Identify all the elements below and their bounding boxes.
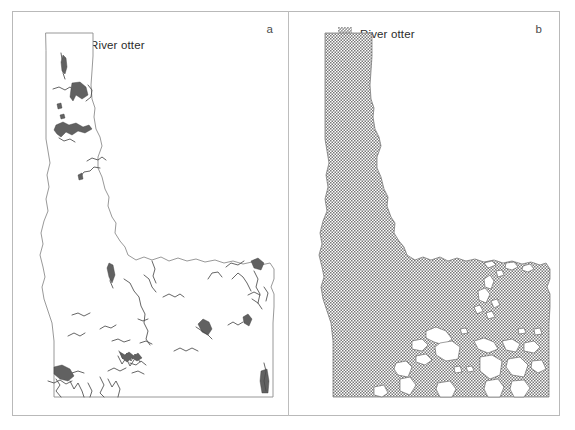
figure-container: a River otter — [0, 0, 575, 430]
panel-a: a River otter — [12, 11, 289, 416]
panel-b: b River otter — [288, 11, 560, 416]
river-patch-bear-lake — [260, 369, 269, 393]
panel-b-map — [288, 11, 560, 416]
river-patch-small-north — [60, 114, 65, 119]
river-patch-coeur-dalene-north — [57, 103, 62, 109]
panel-a-map — [12, 11, 289, 416]
